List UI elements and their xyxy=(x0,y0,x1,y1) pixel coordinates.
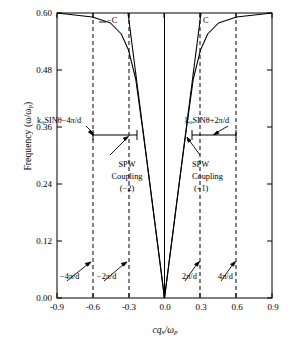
figure-container: Frequency (ω/ωp) cqx/ωp 0.60 0.48 0.36 0… xyxy=(0,0,289,349)
measurement-bar-left xyxy=(93,130,137,140)
annotation-spw-left-line1: SPW xyxy=(104,160,150,170)
annotation-k-right: koSINθ+2π/d xyxy=(185,116,229,127)
annotation-bragg-neg2pi: −2π/d xyxy=(97,272,116,282)
annotation-bragg-neg4pi: −4π/d xyxy=(60,272,79,282)
annotation-bragg-pos2pi: 2π/d xyxy=(182,272,197,282)
annotation-light-line-left: −C xyxy=(107,16,117,26)
leader-arrow-spw-right xyxy=(187,137,200,155)
leader-arrow-k-left xyxy=(86,126,93,135)
annotation-spw-right-line2: Coupling xyxy=(192,172,223,182)
spw-curve-right xyxy=(165,13,273,298)
leader-arrow-k-right xyxy=(214,126,229,135)
annotation-spw-right-line1: SPW xyxy=(192,160,209,170)
annotation-spw-right-line3: (+1) xyxy=(194,184,208,194)
spw-curve-left xyxy=(57,13,165,298)
annotation-light-line-right: C xyxy=(203,16,209,26)
annotation-k-left: koSINθ−4π/d xyxy=(37,116,81,127)
annotation-spw-left-line2: Coupling xyxy=(98,172,156,182)
annotation-spw-left-line3: (−2) xyxy=(104,184,150,194)
annotation-bragg-pos4pi: 4π/d xyxy=(218,272,233,282)
leader-arrow-spw-left xyxy=(110,137,129,156)
